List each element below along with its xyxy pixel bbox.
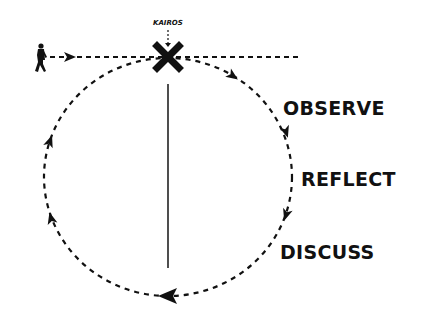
arrow-icon-left-lower bbox=[45, 211, 58, 225]
arrow-icon-right-lower bbox=[279, 208, 292, 223]
arrow-icon-left-upper bbox=[43, 134, 57, 149]
diagram-canvas bbox=[0, 0, 422, 319]
kairos-cycle-diagram: KAIROS OBSERVE REFLECT DISCUSS bbox=[0, 0, 422, 319]
kairos-label: KAIROS bbox=[153, 20, 183, 27]
stage-label-reflect: REFLECT bbox=[301, 170, 396, 189]
kairos-pointer-arrow-icon bbox=[165, 43, 171, 47]
walking-person-icon bbox=[35, 43, 47, 72]
entry-arrow-icon bbox=[64, 52, 76, 62]
stage-label-observe: OBSERVE bbox=[283, 99, 385, 118]
stage-label-discuss: DISCUSS bbox=[280, 243, 375, 262]
arrow-icon-top-right bbox=[225, 68, 241, 83]
